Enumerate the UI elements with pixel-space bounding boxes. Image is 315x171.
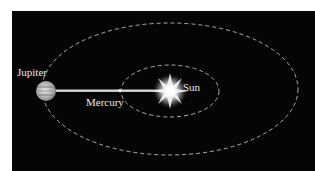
mercury-planet xyxy=(118,89,121,92)
jupiter-planet xyxy=(36,81,56,101)
sun-label: Sun xyxy=(183,81,200,93)
alignment-beam xyxy=(52,90,162,92)
jupiter-label: Jupiter xyxy=(17,66,47,78)
solar-system-diagram xyxy=(0,0,315,171)
mercury-label: Mercury xyxy=(86,96,124,108)
